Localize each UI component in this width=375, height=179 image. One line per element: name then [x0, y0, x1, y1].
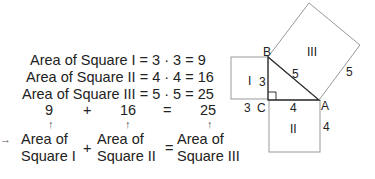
- side-ca-label: 4: [290, 101, 297, 115]
- side-bc-label: 3: [259, 75, 266, 89]
- vertex-b-label: B: [263, 45, 271, 59]
- side-ab-label: 5: [292, 67, 299, 81]
- square-1-label: I: [248, 74, 251, 88]
- square-3-side-label: 5: [346, 65, 353, 79]
- vertex-c-label: C: [257, 101, 266, 115]
- vertex-a-label: A: [321, 99, 329, 113]
- square-3-label: III: [307, 45, 317, 59]
- square-1-side-label: 3: [244, 101, 251, 115]
- square-2-side-label: 4: [323, 120, 330, 134]
- pythagorean-figure: [0, 0, 375, 179]
- square-2-label: II: [290, 122, 297, 136]
- right-angle-marker: [268, 92, 276, 100]
